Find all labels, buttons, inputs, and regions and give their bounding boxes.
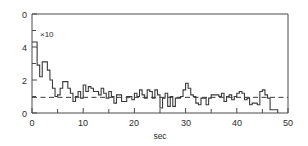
step-plot-svg: 0 2 4 0 0 10 20 30 40 50 sec ×10: [0, 0, 308, 146]
x-tick-label-50: 50: [283, 118, 293, 128]
x-tick-label-10: 10: [78, 118, 88, 128]
y-tick-label-4: 4: [22, 43, 27, 53]
step-series-line: [32, 42, 278, 113]
x-axis-ticks: [32, 108, 288, 113]
x-tick-label-0: 0: [29, 118, 34, 128]
y-tick-label-top: 0: [22, 10, 27, 20]
x-tick-label-30: 30: [181, 118, 191, 128]
chart-figure: 0 2 4 0 0 10 20 30 40 50 sec ×10: [0, 0, 308, 146]
multiplier-annotation: ×10: [40, 30, 54, 39]
x-axis-label: sec: [153, 131, 167, 141]
y-tick-label-0: 0: [22, 109, 27, 119]
x-tick-label-20: 20: [129, 118, 139, 128]
y-axis-ticks: [32, 14, 37, 113]
y-tick-labels: 0 2 4 0: [22, 10, 27, 119]
y-tick-label-2: 2: [22, 76, 27, 86]
x-tick-labels: 0 10 20 30 40 50: [29, 118, 293, 128]
x-tick-label-40: 40: [232, 118, 242, 128]
